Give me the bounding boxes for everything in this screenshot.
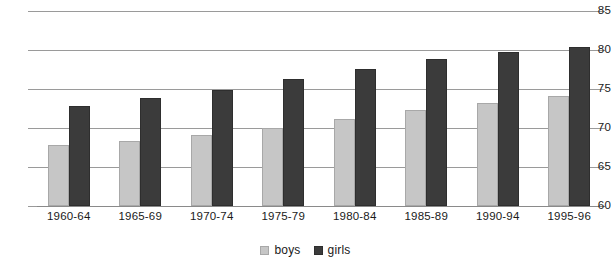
bar-boys [548, 96, 569, 206]
bar-boys [477, 103, 498, 206]
y-axis [0, 11, 26, 206]
bar-boys [119, 141, 140, 206]
y-axis-tick-label: 75 [587, 82, 611, 94]
legend-item-girls: girls [314, 243, 351, 257]
x-axis-tick-label: 1995-96 [529, 210, 609, 222]
y-axis-tick-mark [28, 167, 37, 168]
bar-boys [48, 145, 69, 206]
bar-group [48, 11, 90, 206]
bar-group [119, 11, 161, 206]
x-axis-tick-label: 1990-94 [458, 210, 538, 222]
bar-boys [262, 128, 283, 206]
y-axis-tick-label: 80 [587, 43, 611, 55]
bar-group [405, 11, 447, 206]
y-axis-tick-mark [28, 50, 37, 51]
bar-girls [283, 79, 304, 206]
bar-boys [334, 119, 355, 206]
x-axis-tick-label: 1975-79 [243, 210, 323, 222]
x-axis-labels: 1960-641965-691970-741975-791980-841985-… [33, 210, 605, 230]
y-axis-tick-label: 85 [587, 4, 611, 16]
y-axis-tick-mark [28, 128, 37, 129]
legend-label: girls [328, 243, 351, 257]
y-axis-tick-label: 65 [587, 160, 611, 172]
legend-swatch-icon [260, 246, 269, 255]
bar-girls [498, 52, 519, 206]
bar-girls [355, 69, 376, 206]
bar-group [477, 11, 519, 206]
x-axis-tick-label: 1970-74 [172, 210, 252, 222]
bar-girls [426, 59, 447, 206]
gridline [33, 206, 605, 207]
bar-chart: 1960-641965-691970-741975-791980-841985-… [0, 0, 611, 265]
y-axis-tick-mark [28, 206, 37, 207]
legend-item-boys: boys [260, 243, 300, 257]
plot-area [33, 11, 605, 206]
bar-group [334, 11, 376, 206]
x-axis-tick-label: 1985-89 [386, 210, 466, 222]
x-axis-tick-label: 1960-64 [29, 210, 109, 222]
bar-girls [69, 106, 90, 206]
bar-group [262, 11, 304, 206]
bar-boys [405, 110, 426, 206]
x-axis-tick-label: 1965-69 [100, 210, 180, 222]
legend-label: boys [274, 243, 300, 257]
y-axis-tick-label: 70 [587, 121, 611, 133]
bar-girls [140, 98, 161, 206]
bar-girls [212, 90, 233, 206]
x-axis-tick-label: 1980-84 [315, 210, 395, 222]
y-axis-tick-mark [28, 11, 37, 12]
bar-boys [191, 135, 212, 206]
bar-group [191, 11, 233, 206]
y-axis-tick-label: 60 [587, 199, 611, 211]
chart-legend: boysgirls [0, 243, 611, 257]
legend-swatch-icon [314, 246, 323, 255]
bar-group [548, 11, 590, 206]
y-axis-tick-mark [28, 89, 37, 90]
